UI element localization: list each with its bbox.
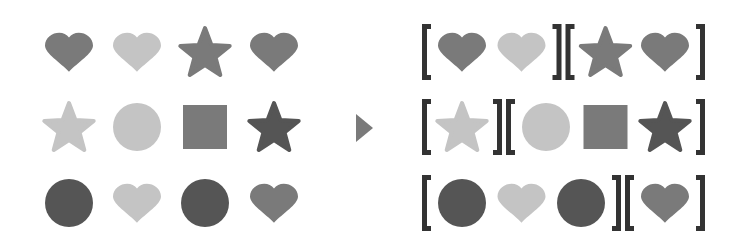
heart-light-icon xyxy=(113,33,161,72)
open-bracket-icon xyxy=(422,24,431,80)
bracket-group xyxy=(625,175,705,231)
heart-mid-icon xyxy=(438,33,486,72)
open-bracket-icon xyxy=(422,175,431,231)
input-row xyxy=(45,28,298,75)
star-mid-icon xyxy=(180,28,229,75)
open-bracket-icon xyxy=(422,99,431,155)
star-light-icon xyxy=(437,103,486,150)
close-bracket-icon xyxy=(553,24,562,80)
close-bracket-icon xyxy=(493,99,502,155)
bracket-group xyxy=(566,24,706,80)
output-row xyxy=(422,175,705,231)
close-bracket-icon xyxy=(612,175,621,231)
star-mid-icon xyxy=(581,28,630,75)
output-groups xyxy=(422,24,705,231)
open-bracket-icon xyxy=(506,99,515,155)
heart-light-icon xyxy=(498,33,546,72)
square-mid-icon xyxy=(183,105,227,149)
input-row xyxy=(45,179,298,227)
output-row xyxy=(422,24,705,80)
input-row xyxy=(44,103,298,151)
heart-mid-icon xyxy=(641,33,689,72)
bracket-group xyxy=(422,175,621,231)
close-bracket-icon xyxy=(696,99,705,155)
circle-light-icon xyxy=(522,103,570,151)
heart-light-icon xyxy=(498,184,546,223)
circle-dark-icon xyxy=(557,179,605,227)
circle-dark-icon xyxy=(45,179,93,227)
bracket-group xyxy=(422,99,502,155)
square-mid-icon xyxy=(584,105,628,149)
open-bracket-icon xyxy=(566,24,575,80)
circle-dark-icon xyxy=(438,179,486,227)
input-grid xyxy=(44,28,298,227)
circle-dark-icon xyxy=(181,179,229,227)
triangle-right-icon xyxy=(356,114,373,142)
star-dark-icon xyxy=(249,103,298,150)
heart-light-icon xyxy=(113,184,161,223)
grouping-diagram xyxy=(0,0,734,244)
close-bracket-icon xyxy=(696,175,705,231)
heart-mid-icon xyxy=(250,184,298,223)
open-bracket-icon xyxy=(625,175,634,231)
heart-mid-icon xyxy=(641,184,689,223)
output-row xyxy=(422,99,705,155)
close-bracket-icon xyxy=(696,24,705,80)
heart-mid-icon xyxy=(45,33,93,72)
bracket-group xyxy=(422,24,562,80)
bracket-group xyxy=(506,99,705,155)
star-light-icon xyxy=(44,103,93,150)
heart-mid-icon xyxy=(250,33,298,72)
star-dark-icon xyxy=(640,103,689,150)
circle-light-icon xyxy=(113,103,161,151)
